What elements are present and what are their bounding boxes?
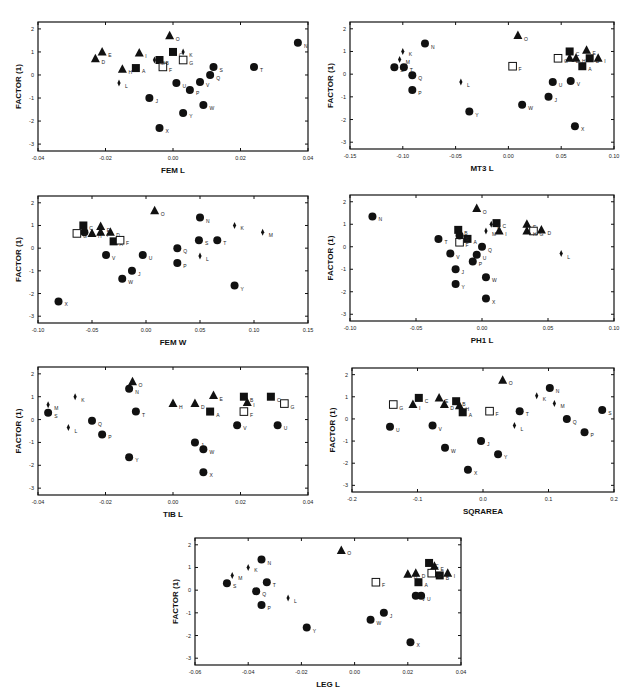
point-label: H xyxy=(533,231,537,237)
point-label: X xyxy=(492,299,496,305)
point-label: Y xyxy=(504,454,508,460)
data-point-s xyxy=(44,409,52,417)
point-label: X xyxy=(65,301,69,307)
point-label: T xyxy=(142,412,145,418)
data-point-u xyxy=(549,78,557,86)
data-point-c xyxy=(415,394,423,402)
data-point-h xyxy=(403,569,412,578)
point-label: V xyxy=(456,254,460,260)
point-label: N xyxy=(135,389,139,395)
data-point-e xyxy=(209,391,218,400)
y-tick-label: 0 xyxy=(31,417,34,423)
point-label: U xyxy=(483,255,487,261)
y-axis-label: FACTOR (1) xyxy=(171,579,180,624)
point-label: D xyxy=(450,405,454,411)
scatter-plot-tib-l: -0.04-0.020.000.020.04-3-2-1012TIB LFACT… xyxy=(14,367,313,519)
point-label: D xyxy=(547,230,551,236)
point-label: G xyxy=(539,231,543,237)
point-label: G xyxy=(438,573,442,579)
y-tick-label: 2 xyxy=(345,372,348,378)
data-point-y xyxy=(303,624,311,632)
point-label: Q xyxy=(488,247,492,253)
point-label: Q xyxy=(262,591,266,597)
point-label: F xyxy=(466,242,469,248)
point-label: X xyxy=(581,126,585,132)
y-tick-label: -2 xyxy=(341,117,346,123)
point-label: M xyxy=(560,403,564,409)
y-tick-label: 2 xyxy=(31,200,34,206)
data-point-w xyxy=(199,445,207,453)
x-tick-label: -0.2 xyxy=(347,496,356,502)
data-point-p xyxy=(258,601,266,609)
x-tick-label: -0.02 xyxy=(295,669,308,675)
point-label: Q xyxy=(418,75,422,81)
point-label: K xyxy=(189,52,193,58)
point-label: Q xyxy=(183,248,187,254)
point-label: U xyxy=(396,427,400,433)
data-point-k xyxy=(401,48,404,55)
data-point-p xyxy=(581,428,589,436)
data-point-t xyxy=(263,578,271,586)
data-point-p xyxy=(469,257,477,265)
data-point-u xyxy=(172,79,180,87)
point-label: E xyxy=(440,566,444,572)
point-label: P xyxy=(418,90,422,96)
x-tick-label: -0.10 xyxy=(397,153,410,159)
point-label: T xyxy=(444,239,447,245)
data-point-f xyxy=(372,578,380,586)
point-label: U xyxy=(149,255,153,261)
y-tick-label: 0 xyxy=(345,416,348,422)
point-label: O xyxy=(139,382,143,388)
data-point-g xyxy=(73,230,81,238)
x-tick-label: -0.1 xyxy=(413,496,422,502)
x-tick-label: 0.10 xyxy=(249,327,260,333)
x-tick-label: 0.05 xyxy=(195,327,206,333)
data-point-w xyxy=(441,444,449,452)
data-point-q xyxy=(563,415,571,423)
data-point-c xyxy=(169,48,177,56)
data-point-y xyxy=(494,450,502,458)
x-tick-label: 0.2 xyxy=(610,496,618,502)
y-tick-label: -2 xyxy=(29,118,34,124)
point-label: M xyxy=(269,232,273,238)
data-point-v xyxy=(567,77,575,85)
point-label: F xyxy=(169,67,172,73)
point-label: D xyxy=(101,59,105,65)
plot-frame xyxy=(38,196,308,323)
point-label: F xyxy=(496,411,499,417)
data-point-v xyxy=(102,251,110,259)
point-label: V xyxy=(243,425,247,431)
data-point-g xyxy=(281,400,289,408)
point-label: I xyxy=(454,573,455,579)
y-tick-label: 2 xyxy=(31,26,34,32)
point-label: Q xyxy=(98,421,102,427)
point-label: A xyxy=(473,239,477,245)
data-point-o xyxy=(337,545,346,554)
data-point-y xyxy=(231,282,239,290)
point-label: L xyxy=(125,83,128,89)
x-tick-label: 0.05 xyxy=(556,153,567,159)
point-label: S xyxy=(220,67,224,73)
data-point-x xyxy=(482,295,490,303)
figure-canvas: -0.04-0.020.000.020.04-3-2-1012FEM LFACT… xyxy=(0,0,634,697)
data-point-g xyxy=(179,56,187,64)
y-tick-label: 1 xyxy=(188,564,191,570)
point-label: J xyxy=(555,97,558,103)
data-point-p xyxy=(186,86,194,94)
point-label: E xyxy=(593,50,597,56)
y-tick-label: 0 xyxy=(188,587,191,593)
point-label: U xyxy=(284,425,288,431)
point-label: H xyxy=(128,69,132,75)
point-label: O xyxy=(509,380,513,386)
y-tick-label: 2 xyxy=(188,542,191,548)
y-tick-label: 2 xyxy=(343,26,346,32)
y-tick-label: -2 xyxy=(341,289,346,295)
data-point-u xyxy=(386,423,394,431)
point-label: H xyxy=(465,406,469,412)
point-label: I xyxy=(419,405,420,411)
point-label: G xyxy=(189,60,193,66)
point-label: N xyxy=(206,218,210,224)
y-tick-label: -2 xyxy=(343,460,348,466)
y-tick-label: 2 xyxy=(343,199,346,205)
point-label: Y xyxy=(475,112,479,118)
